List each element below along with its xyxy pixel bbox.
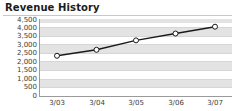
x-axis-tick-label: 3/07 [207,99,223,107]
x-axis-tick-label: 3/06 [168,99,184,107]
header-divider [3,15,232,16]
x-axis-tick-label: 3/03 [49,99,65,107]
revenue-line-series [40,19,232,96]
page-title: Revenue History [5,1,100,14]
series-data-point [173,31,178,36]
x-axis-tick-labels: 3/03 3/04 3/05 3/06 3/07 [40,99,232,111]
y-axis-tick-label: 1,000 [1,76,37,83]
series-data-point [213,24,218,29]
revenue-history-chart-widget: Revenue History 4,500 4,000 3,500 3,000 … [0,0,235,111]
y-axis-tick-label: 0 [1,93,37,100]
y-axis-tick-label: 4,500 [1,17,37,24]
y-axis-tick-label: 3,500 [1,33,37,40]
y-axis-tick-labels: 4,500 4,000 3,500 3,000 2,500 2,000 1,50… [0,17,37,111]
series-data-point [55,53,60,58]
x-axis-line [39,96,232,97]
y-axis-tick-label: 1,500 [1,67,37,74]
series-data-point [94,47,99,52]
y-axis-tick-label: 500 [1,84,37,91]
x-axis-tick-label: 3/04 [89,99,105,107]
series-data-point [134,38,139,43]
y-axis-tick-label: 3,000 [1,42,37,49]
series-marker-group [55,24,218,58]
x-axis-tick-label: 3/05 [128,99,144,107]
y-axis-line [39,19,40,97]
y-axis-tick-label: 4,000 [1,25,37,32]
chart-canvas: 4,500 4,000 3,500 3,000 2,500 2,000 1,50… [0,17,235,111]
y-axis-tick-label: 2,000 [1,59,37,66]
chart-header: Revenue History [0,0,235,16]
plot-area [40,19,232,96]
y-axis-tick-label: 2,500 [1,50,37,57]
